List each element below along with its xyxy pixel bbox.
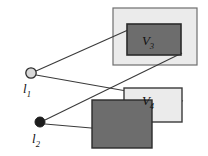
- figure-canvas: V3 V4 l1 l2: [0, 0, 208, 156]
- label-l2-subscript: 2: [36, 139, 41, 149]
- light-source-l1-marker: [26, 68, 36, 78]
- label-l1: l1: [23, 81, 31, 99]
- label-l2: l2: [32, 131, 41, 149]
- label-v3-subscript: 3: [149, 41, 154, 51]
- label-v4-subscript: 4: [150, 101, 155, 111]
- diagram-svg: V3 V4 l1 l2: [0, 0, 208, 156]
- label-l1-subscript: 1: [27, 89, 31, 99]
- light-source-l2-marker: [35, 117, 45, 127]
